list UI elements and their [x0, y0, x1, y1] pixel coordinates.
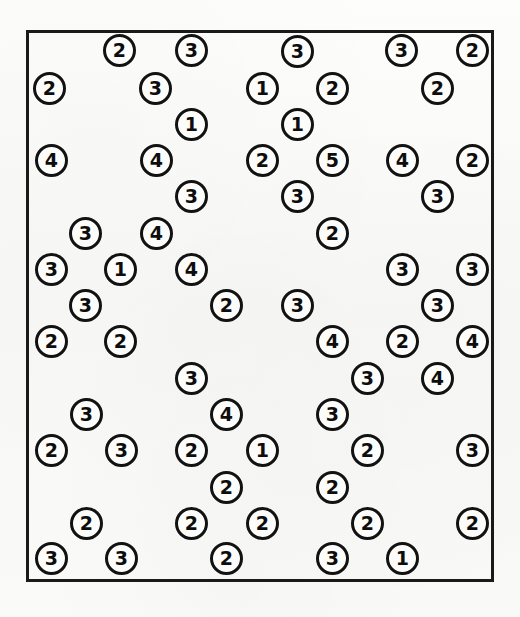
token-value-label: 2 [326, 223, 339, 242]
token-value-label: 2 [326, 477, 339, 496]
token-value-label: 1 [185, 114, 198, 133]
scatter-canvas: 2333223122114425423333423143332332242433… [0, 0, 520, 617]
token-value-label: 3 [79, 223, 92, 242]
number-token[interactable]: 2 [210, 289, 243, 322]
number-token[interactable]: 2 [351, 507, 384, 540]
token-value-label: 4 [45, 150, 58, 169]
token-value-label: 3 [115, 548, 128, 567]
number-token[interactable]: 3 [105, 434, 138, 467]
number-token[interactable]: 1 [386, 542, 419, 575]
number-token[interactable]: 1 [281, 108, 314, 141]
number-token[interactable]: 2 [246, 144, 279, 177]
number-token[interactable]: 2 [351, 434, 384, 467]
number-token[interactable]: 2 [421, 72, 454, 105]
number-token[interactable]: 3 [35, 542, 68, 575]
token-value-label: 4 [431, 368, 444, 387]
number-token[interactable]: 1 [175, 108, 208, 141]
token-value-label: 4 [326, 331, 339, 350]
number-token[interactable]: 3 [69, 289, 102, 322]
number-token[interactable]: 3 [385, 34, 418, 67]
token-value-label: 3 [291, 41, 304, 60]
number-token[interactable]: 2 [456, 144, 489, 177]
token-value-label: 2 [361, 440, 374, 459]
token-value-label: 4 [185, 259, 198, 278]
token-value-label: 2 [185, 440, 198, 459]
number-token[interactable]: 2 [316, 72, 349, 105]
number-token[interactable]: 2 [175, 434, 208, 467]
token-value-label: 4 [150, 150, 163, 169]
token-value-label: 3 [396, 259, 409, 278]
token-value-label: 3 [185, 40, 198, 59]
number-token[interactable]: 3 [281, 289, 314, 322]
number-token[interactable]: 1 [104, 253, 137, 286]
number-token[interactable]: 2 [35, 325, 68, 358]
number-token[interactable]: 4 [316, 325, 349, 358]
token-value-label: 2 [220, 548, 233, 567]
number-token[interactable]: 2 [210, 542, 243, 575]
number-token[interactable]: 3 [175, 34, 208, 67]
number-token[interactable]: 1 [246, 72, 279, 105]
token-value-label: 3 [326, 548, 339, 567]
number-token[interactable]: 3 [421, 180, 454, 213]
number-token[interactable]: 3 [456, 253, 489, 286]
number-token[interactable]: 2 [33, 72, 66, 105]
number-token[interactable]: 2 [70, 507, 103, 540]
number-token[interactable]: 4 [386, 144, 419, 177]
number-token[interactable]: 3 [69, 217, 102, 250]
number-token[interactable]: 4 [140, 144, 173, 177]
number-token[interactable]: 3 [456, 434, 489, 467]
number-token[interactable]: 3 [175, 180, 208, 213]
number-token[interactable]: 2 [210, 471, 243, 504]
token-value-label: 4 [466, 331, 479, 350]
token-value-label: 2 [185, 513, 198, 532]
number-token[interactable]: 4 [456, 325, 489, 358]
token-value-label: 2 [220, 295, 233, 314]
token-value-label: 3 [185, 186, 198, 205]
token-value-label: 3 [326, 404, 339, 423]
number-token[interactable]: 3 [70, 398, 103, 431]
number-token[interactable]: 3 [35, 253, 68, 286]
number-token[interactable]: 1 [246, 434, 279, 467]
token-value-label: 3 [80, 404, 93, 423]
token-value-label: 2 [466, 150, 479, 169]
number-token[interactable]: 4 [140, 217, 173, 250]
token-value-label: 4 [220, 404, 233, 423]
number-token[interactable]: 2 [175, 507, 208, 540]
number-token[interactable]: 2 [316, 471, 349, 504]
number-token[interactable]: 3 [281, 35, 314, 68]
token-value-label: 2 [114, 331, 127, 350]
number-token[interactable]: 3 [351, 362, 384, 395]
token-value-label: 4 [150, 223, 163, 242]
number-token[interactable]: 2 [35, 434, 68, 467]
number-token[interactable]: 4 [35, 144, 68, 177]
number-token[interactable]: 3 [139, 72, 172, 105]
number-token[interactable]: 3 [281, 180, 314, 213]
number-token[interactable]: 2 [456, 507, 489, 540]
token-value-label: 2 [45, 440, 58, 459]
number-token[interactable]: 2 [316, 217, 349, 250]
token-value-label: 3 [291, 295, 304, 314]
number-token[interactable]: 2 [386, 325, 419, 358]
number-token[interactable]: 2 [103, 34, 136, 67]
token-value-label: 5 [326, 150, 339, 169]
token-value-label: 3 [466, 259, 479, 278]
number-token[interactable]: 3 [421, 289, 454, 322]
token-value-label: 4 [396, 150, 409, 169]
number-token[interactable]: 5 [316, 144, 349, 177]
number-token[interactable]: 3 [316, 542, 349, 575]
number-token[interactable]: 3 [105, 542, 138, 575]
number-token[interactable]: 2 [456, 34, 489, 67]
number-token[interactable]: 3 [386, 253, 419, 286]
number-token[interactable]: 4 [421, 362, 454, 395]
number-token[interactable]: 2 [104, 325, 137, 358]
token-value-label: 2 [326, 78, 339, 97]
number-token[interactable]: 3 [316, 398, 349, 431]
number-token[interactable]: 4 [175, 253, 208, 286]
token-value-label: 2 [43, 78, 56, 97]
token-value-label: 3 [431, 186, 444, 205]
number-token[interactable]: 4 [210, 398, 243, 431]
token-value-label: 2 [256, 150, 269, 169]
token-value-label: 3 [149, 78, 162, 97]
number-token[interactable]: 2 [246, 507, 279, 540]
number-token[interactable]: 3 [175, 362, 208, 395]
